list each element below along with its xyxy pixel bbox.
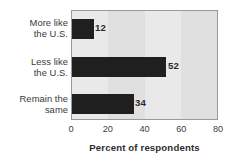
xtick-label-20: 20 bbox=[103, 124, 113, 134]
xtick-label-0: 0 bbox=[68, 124, 73, 134]
bar-remain-the-same bbox=[72, 94, 134, 114]
category-label-less-like-us: Less like the U.S. bbox=[2, 56, 68, 79]
category-label-remain-the-same: Remain the same bbox=[2, 93, 68, 116]
xtick-label-60: 60 bbox=[176, 124, 186, 134]
value-label-more-like-us: 12 bbox=[95, 23, 106, 33]
xtick-label-40: 40 bbox=[139, 124, 149, 134]
value-label-remain-the-same: 34 bbox=[135, 98, 146, 108]
value-label-less-like-us: 52 bbox=[168, 61, 179, 71]
background-band-60-80 bbox=[181, 11, 217, 119]
x-axis-title: Percent of respondents bbox=[71, 142, 218, 153]
xtick-label-80: 80 bbox=[213, 124, 223, 134]
bar-chart: More like the U.S. Less like the U.S. Re… bbox=[0, 0, 232, 158]
bar-less-like-us bbox=[72, 57, 166, 77]
category-label-more-like-us: More like the U.S. bbox=[2, 17, 68, 40]
bar-more-like-us bbox=[72, 19, 94, 39]
